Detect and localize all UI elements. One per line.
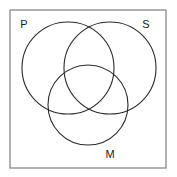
set-label-m: M	[105, 148, 114, 160]
set-label-s: S	[142, 18, 149, 30]
universal-set-frame	[10, 10, 166, 168]
venn-diagram-svg: P S M	[0, 0, 177, 177]
set-label-p: P	[20, 18, 27, 30]
venn-diagram-container: P S M	[0, 0, 177, 177]
